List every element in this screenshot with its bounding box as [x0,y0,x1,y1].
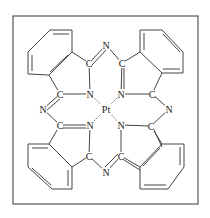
svg-text:Pt: Pt [102,104,111,115]
svg-text:C: C [119,58,126,69]
svg-text:N: N [86,89,93,100]
atom-label-c-t1: C [86,58,93,69]
svg-text:C: C [57,120,64,131]
svg-text:N: N [117,120,124,131]
atom-label-c-b2: C [118,151,125,162]
atom-label-c-r1: C [149,89,156,100]
atom-label-c-t2: C [119,58,126,69]
svg-text:C: C [57,89,64,100]
atom-label-c-b1: C [86,151,93,162]
phthalocyanine-diagram: N N N N N N N N C C C C C C C C Pt [0,0,210,218]
svg-text:C: C [148,121,155,132]
atom-label-n-inner-tl: N [86,89,94,100]
atom-labels: N N N N N N N N C C C C C C C C Pt [39,40,173,178]
svg-text:C: C [118,151,125,162]
svg-text:C: C [149,89,156,100]
svg-text:N: N [86,120,93,131]
atom-label-c-l1: C [57,89,64,100]
benzene-ring-bottom-right [140,144,184,189]
atom-label-n-inner-tr: N [117,89,125,100]
atom-label-n-bottom: N [102,167,110,178]
atom-label-c-l2: C [57,120,64,131]
atom-label-n-inner-bl: N [86,120,94,131]
benzene-ring-top-right [140,30,183,73]
atom-label-n-inner-br: N [117,120,125,131]
svg-text:N: N [39,104,46,115]
atom-label-c-r2: C [148,121,155,132]
svg-text:N: N [102,167,109,178]
svg-text:C: C [86,58,93,69]
benzene-ring-top-left [28,30,72,75]
atom-label-n-top: N [102,40,110,51]
atom-label-n-right: N [165,104,173,115]
svg-text:N: N [102,40,109,51]
structure-svg: N N N N N N N N C C C C C C C C Pt [0,0,210,218]
atom-label-n-left: N [39,104,47,115]
svg-text:C: C [86,151,93,162]
benzene-ring-bottom-left [28,144,72,189]
svg-text:N: N [117,89,124,100]
atom-label-pt: Pt [99,104,113,115]
svg-text:N: N [165,104,172,115]
